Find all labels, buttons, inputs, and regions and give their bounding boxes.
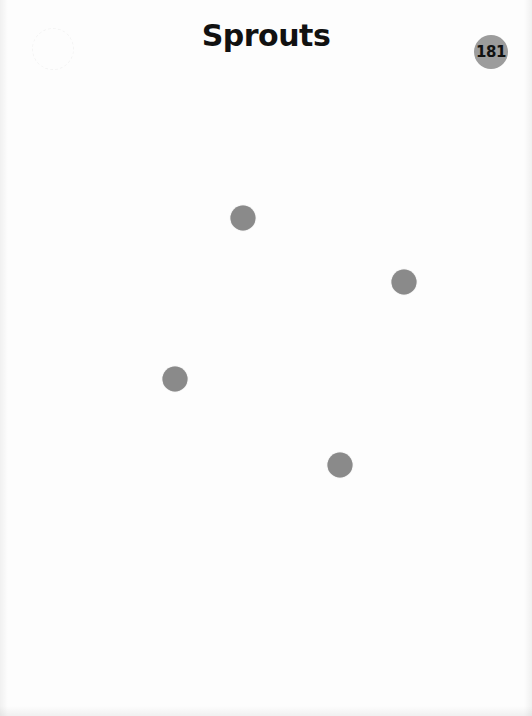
sprout-dot[interactable] [392,270,417,295]
sprout-dot[interactable] [231,206,256,231]
sprout-dot[interactable] [163,367,188,392]
puzzle-page: Sprouts 181 [0,0,532,716]
game-board[interactable] [0,0,532,716]
sprout-dot[interactable] [328,453,353,478]
